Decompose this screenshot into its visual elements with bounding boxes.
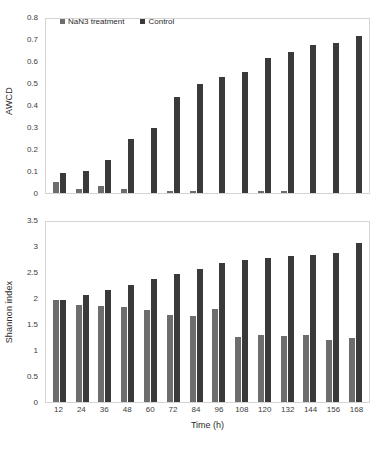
x-tick-label: 24 — [70, 405, 93, 414]
legend-item-nan3: NaN3 treatment — [60, 17, 124, 26]
x-tick-label: 108 — [230, 405, 253, 414]
bar-group — [162, 19, 185, 193]
x-tick-label: 96 — [207, 405, 230, 414]
legend-label-control: Control — [148, 17, 174, 26]
bar-control — [356, 243, 362, 402]
bar-control — [265, 58, 271, 193]
x-tick-label: 36 — [93, 405, 116, 414]
plot-area-awcd — [45, 18, 370, 194]
bar-control — [333, 253, 339, 402]
bar-nan3-treatment — [167, 191, 173, 193]
bar-nan3-treatment — [53, 182, 59, 193]
x-tick-label: 12 — [47, 405, 70, 414]
bar-control — [310, 45, 316, 193]
bar-control — [174, 97, 180, 193]
bar-group — [321, 19, 344, 193]
x-tick-label: 168 — [345, 405, 368, 414]
bar-group — [94, 222, 117, 402]
legend-item-control: Control — [140, 17, 174, 26]
y-tick-label: 0.1 — [12, 168, 38, 176]
bar-group — [71, 222, 94, 402]
legend-swatch-icon-nan3 — [60, 19, 65, 24]
bar-nan3-treatment — [258, 335, 264, 402]
bar-nan3-treatment — [349, 338, 355, 402]
x-axis-ticks: 1224364860728496108120132144156168 — [45, 405, 370, 414]
bar-nan3-treatment — [258, 191, 264, 193]
y-tick-label: 0.3 — [12, 124, 38, 132]
y-tick-label: 0.6 — [12, 58, 38, 66]
bar-group — [71, 19, 94, 193]
bar-group — [253, 19, 276, 193]
bar-group — [344, 19, 367, 193]
y-tick-label: 2.5 — [12, 269, 38, 277]
legend: NaN3 treatment Control — [60, 17, 174, 26]
bar-group — [299, 19, 322, 193]
bar-group — [321, 222, 344, 402]
bar-nan3-treatment — [76, 189, 82, 193]
bar-control — [105, 290, 111, 402]
y-tick-label: 0 — [12, 399, 38, 407]
bar-nan3-treatment — [281, 191, 287, 193]
bar-control — [242, 72, 248, 193]
bar-control — [242, 260, 248, 402]
bar-group — [185, 222, 208, 402]
x-tick-label: 60 — [139, 405, 162, 414]
bar-nan3-treatment — [98, 186, 104, 193]
y-tick-label: 0.5 — [12, 373, 38, 381]
y-tick-label: 2 — [12, 295, 38, 303]
bar-control — [356, 36, 362, 193]
y-axis-ticks-awcd: 0.80.70.60.50.40.30.20.10 — [12, 0, 38, 215]
legend-label-nan3: NaN3 treatment — [68, 17, 124, 26]
bar-nan3-treatment — [190, 316, 196, 402]
bar-control — [60, 300, 66, 402]
bar-series-shannon — [46, 222, 369, 402]
bar-nan3-treatment — [190, 191, 196, 193]
chart-shannon-index: Shannon index 3.532.521.510.50 122436486… — [0, 215, 378, 450]
bar-control — [83, 295, 89, 402]
x-tick-label: 72 — [162, 405, 185, 414]
bar-group — [48, 222, 71, 402]
bar-group — [162, 222, 185, 402]
bar-nan3-treatment — [98, 306, 104, 402]
chart-awcd: AWCD 0.80.70.60.50.40.30.20.10 NaN3 trea… — [0, 0, 378, 215]
bar-nan3-treatment — [121, 189, 127, 193]
y-tick-label: 3.5 — [12, 217, 38, 225]
bar-group — [344, 222, 367, 402]
bar-control — [151, 128, 157, 193]
bar-nan3-treatment — [167, 315, 173, 402]
bar-group — [207, 19, 230, 193]
bar-control — [288, 256, 294, 402]
bar-control — [288, 52, 294, 193]
x-tick-label: 132 — [276, 405, 299, 414]
y-tick-label: 0 — [12, 190, 38, 198]
bar-nan3-treatment — [326, 340, 332, 402]
bar-control — [333, 43, 339, 193]
bar-control — [219, 263, 225, 402]
x-axis-title: Time (h) — [45, 420, 370, 430]
bar-nan3-treatment — [76, 305, 82, 402]
y-tick-label: 0.4 — [12, 102, 38, 110]
bar-group — [230, 222, 253, 402]
y-tick-label: 3 — [12, 243, 38, 251]
bar-control — [60, 173, 66, 193]
bar-group — [185, 19, 208, 193]
y-tick-label: 0.5 — [12, 80, 38, 88]
bar-control — [105, 160, 111, 193]
bar-nan3-treatment — [212, 309, 218, 402]
y-tick-label: 0.2 — [12, 146, 38, 154]
bar-nan3-treatment — [121, 307, 127, 402]
bar-control — [83, 171, 89, 193]
bar-control — [174, 274, 180, 402]
x-axis: 1224364860728496108120132144156168 Time … — [45, 405, 370, 445]
y-tick-label: 1 — [12, 347, 38, 355]
bar-group — [207, 222, 230, 402]
bar-series-awcd — [46, 19, 369, 193]
bar-nan3-treatment — [281, 336, 287, 402]
bar-group — [48, 19, 71, 193]
bar-nan3-treatment — [144, 310, 150, 402]
bar-group — [276, 222, 299, 402]
x-tick-label: 156 — [322, 405, 345, 414]
bar-group — [116, 19, 139, 193]
x-tick-label: 48 — [116, 405, 139, 414]
bar-group — [276, 19, 299, 193]
